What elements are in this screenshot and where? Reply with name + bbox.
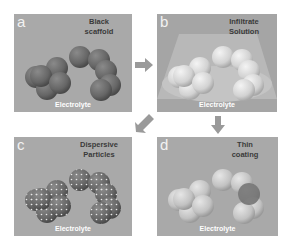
panel-a-black-scaffold: a Black scaffold Electrolyte: [14, 14, 132, 112]
panel-title: Black scaffold: [74, 17, 124, 37]
panel-letter: c: [17, 137, 25, 153]
panel-letter: a: [17, 14, 25, 30]
electrolyte-label: Electrolyte: [14, 101, 132, 108]
panel-b-infiltrate-solution: b Infiltrate Solution Electrolyte: [157, 14, 277, 112]
panel-title: Dispersive Particles: [74, 140, 124, 160]
arrow-down-icon: [211, 116, 225, 134]
panel-title: Infiltrate Solution: [219, 17, 269, 37]
electrolyte-label: Electrolyte: [157, 101, 277, 108]
panel-title: Thin coating: [220, 140, 270, 160]
panel-letter: d: [160, 137, 168, 153]
arrow-down-left-icon: [134, 114, 154, 134]
electrolyte-label: Electrolyte: [14, 225, 132, 232]
panel-c-dispersive-particles: c Dispersive Particles Electrolyte: [14, 137, 132, 236]
electrolyte-label: Electrolyte: [157, 225, 278, 232]
panel-d-thin-coating: d Thin coating Electrolyte: [157, 137, 278, 236]
arrow-right-icon: [135, 58, 153, 72]
panel-letter: b: [160, 14, 168, 30]
